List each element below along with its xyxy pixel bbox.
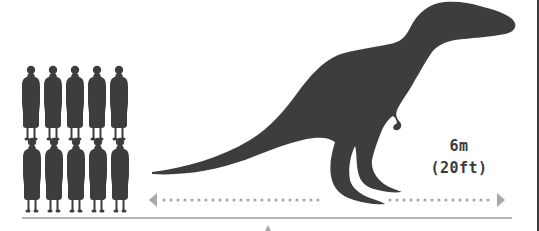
person-silhouette-icon bbox=[110, 66, 128, 141]
person-silhouette-icon bbox=[66, 66, 84, 141]
person-silhouette-icon bbox=[22, 66, 40, 141]
people-group bbox=[0, 0, 539, 231]
length-imperial: (20ft) bbox=[414, 157, 504, 179]
person-silhouette-icon bbox=[44, 66, 62, 141]
person-silhouette-icon bbox=[23, 138, 41, 213]
person-silhouette-icon bbox=[45, 138, 63, 213]
person-silhouette-icon bbox=[89, 138, 107, 213]
person-silhouette-icon bbox=[67, 138, 85, 213]
person-silhouette-icon bbox=[111, 138, 129, 213]
person-silhouette-icon bbox=[88, 66, 106, 141]
length-metric: 6m bbox=[414, 135, 504, 157]
length-label: 6m (20ft) bbox=[414, 135, 504, 179]
